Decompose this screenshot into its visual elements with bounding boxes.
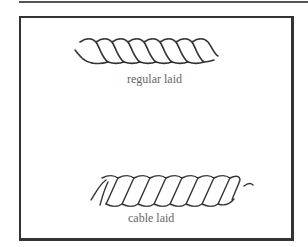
cable-laid-label: cable laid [128,211,174,226]
cable-laid-rope-illustration [88,172,256,210]
top-rule [19,1,308,3]
regular-laid-label: regular laid [127,72,182,87]
regular-laid-rope-illustration [72,34,224,68]
